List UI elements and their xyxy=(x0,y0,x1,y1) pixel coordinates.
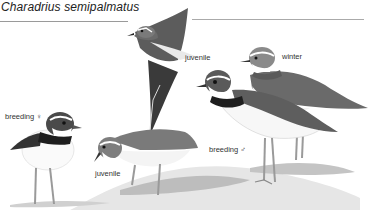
ground-shadow xyxy=(10,163,360,210)
label-breeding-female: breeding ♀ xyxy=(5,112,42,121)
plover-illustration xyxy=(0,0,371,210)
label-breeding-male: breeding ♂ xyxy=(209,145,246,154)
bird-flying-juvenile xyxy=(127,8,195,135)
label-juvenile-standing: juvenile xyxy=(95,169,120,178)
bird-breeding-female xyxy=(10,112,82,204)
label-winter: winter xyxy=(282,52,302,61)
label-flying-juvenile: juvenile xyxy=(185,53,210,62)
